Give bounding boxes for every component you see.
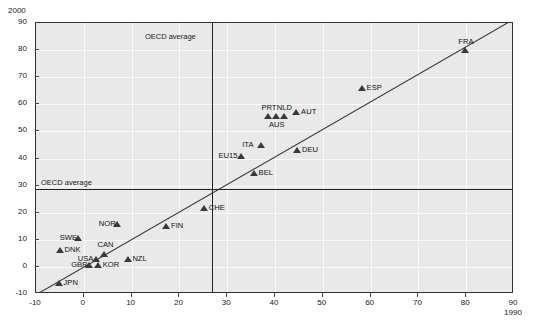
data-point-marker[interactable] <box>280 113 288 119</box>
data-point-label: KOR <box>103 260 119 269</box>
x-axis-tick-mark <box>465 293 466 297</box>
y-axis-tick-label: 60 <box>18 98 27 107</box>
data-point-label: SWE <box>60 233 77 242</box>
x-axis-tick-label: -10 <box>20 298 50 307</box>
chart-title <box>0 0 533 7</box>
x-axis-tick-mark <box>370 293 371 297</box>
y-axis-tick-label: 50 <box>18 125 27 134</box>
data-point-label: FIN <box>171 221 183 230</box>
data-point-marker[interactable] <box>358 85 366 91</box>
y-axis-tick-mark <box>35 130 39 131</box>
data-point-marker[interactable] <box>56 247 64 253</box>
x-axis-tick-mark <box>83 293 84 297</box>
data-point-label: FRA <box>458 37 473 46</box>
data-point-label: ITA <box>242 140 253 149</box>
x-axis-tick-label: 20 <box>163 298 193 307</box>
data-point-marker[interactable] <box>200 205 208 211</box>
data-point-label: BEL <box>259 168 273 177</box>
x-axis-tick-mark <box>226 293 227 297</box>
oecd-average-line-vertical <box>212 23 214 292</box>
data-point-marker[interactable] <box>293 147 301 153</box>
y-axis-tick-label: 80 <box>18 44 27 53</box>
y-axis-tick-label: 10 <box>18 234 27 243</box>
data-point-label: ESP <box>367 83 382 92</box>
x-axis-tick-label: 50 <box>307 298 337 307</box>
y-axis-tick-mark <box>35 185 39 186</box>
x-axis-tick-label: 70 <box>402 298 432 307</box>
data-point-label: JPN <box>64 278 78 287</box>
data-point-label: NLD <box>277 103 292 112</box>
y-axis-tick-mark <box>35 239 39 240</box>
data-point-marker[interactable] <box>55 280 63 286</box>
data-point-marker[interactable] <box>237 153 245 159</box>
y-axis-tick-labels: -100102030405060708090 <box>0 0 31 325</box>
data-point-marker[interactable] <box>94 262 102 268</box>
data-point-marker[interactable] <box>292 109 300 115</box>
data-point-marker[interactable] <box>124 256 132 262</box>
data-point-label: DNK <box>65 245 81 254</box>
x-axis-tick-mark <box>274 293 275 297</box>
y-axis-tick-label: 40 <box>18 153 27 162</box>
x-axis-tick-label: 30 <box>211 298 241 307</box>
x-axis-tick-label: 0 <box>68 298 98 307</box>
x-axis-tick-label: 40 <box>259 298 289 307</box>
data-point-label: NOR <box>99 219 116 228</box>
x-axis-tick-mark <box>322 293 323 297</box>
y-axis-title: 2000 <box>8 6 26 15</box>
x-axis-tick-mark <box>417 293 418 297</box>
x-axis-tick-label: 90 <box>498 298 528 307</box>
x-axis-tick-mark <box>131 293 132 297</box>
y-axis-tick-mark <box>35 266 39 267</box>
data-point-label: AUT <box>301 107 316 116</box>
data-point-marker[interactable] <box>100 251 108 257</box>
x-axis-tick-label: 10 <box>116 298 146 307</box>
x-axis-title: 1990 <box>498 308 528 317</box>
x-axis-tick-mark <box>178 293 179 297</box>
data-point-label: NZL <box>132 254 146 263</box>
oecd-average-line-horizontal <box>36 189 512 191</box>
y-axis-tick-mark <box>35 103 39 104</box>
oecd-average-label: OECD average <box>41 178 92 187</box>
y-axis-tick-label: 70 <box>18 71 27 80</box>
data-point-label: DEU <box>302 145 318 154</box>
y-axis-tick-label: 30 <box>18 180 27 189</box>
y-axis-tick-mark <box>35 158 39 159</box>
data-point-label: CAN <box>97 240 113 249</box>
data-point-label: PRT <box>261 103 276 112</box>
data-point-marker[interactable] <box>461 47 469 53</box>
x-axis-tick-label: 60 <box>355 298 385 307</box>
oecd-average-label: OECD average <box>145 32 196 41</box>
data-point-marker[interactable] <box>250 170 258 176</box>
y-axis-tick-mark <box>35 212 39 213</box>
x-axis-tick-label: 80 <box>450 298 480 307</box>
y-axis-tick-label: 20 <box>18 207 27 216</box>
x-axis-tick-labels: -100102030405060708090 <box>0 296 533 310</box>
y-axis-tick-label: 0 <box>23 261 27 270</box>
data-point-label: AUS <box>269 120 285 129</box>
y-axis-tick-mark <box>35 76 39 77</box>
data-point-label: USA <box>78 254 94 263</box>
data-point-label: EU15 <box>219 151 238 160</box>
data-point-marker[interactable] <box>162 223 170 229</box>
data-point-marker[interactable] <box>257 142 265 148</box>
plot-area: JPNDNKSWEGBRKORUSACANNZLNORFINCHEBELEU15… <box>35 22 513 293</box>
y-axis-tick-mark <box>35 49 39 50</box>
y-axis-tick-label: 90 <box>18 17 27 26</box>
